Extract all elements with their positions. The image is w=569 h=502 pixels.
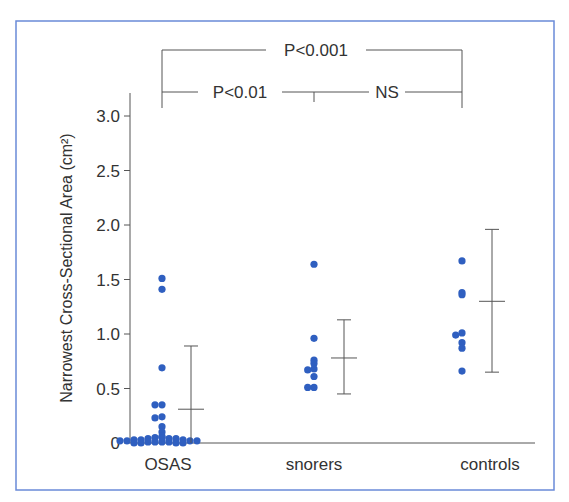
figure-frame	[16, 21, 554, 490]
data-point	[186, 437, 193, 444]
data-point	[310, 365, 317, 372]
annotation-p-0001: P<0.001	[284, 41, 348, 60]
x-category-label: OSAS	[144, 455, 191, 474]
data-point	[158, 364, 165, 371]
data-point	[116, 437, 123, 444]
y-axis-label: Narrowest Cross-Sectional Area (cm²)	[58, 133, 75, 402]
annotation-p-001: P<0.01	[213, 83, 267, 102]
y-tick-label: 2.0	[96, 216, 120, 235]
data-point	[452, 331, 459, 338]
x-category-label: snorers	[286, 455, 343, 474]
data-point	[165, 438, 172, 445]
data-point	[151, 401, 158, 408]
annotation-ns: NS	[375, 83, 399, 102]
data-point	[158, 401, 165, 408]
data-point	[304, 366, 311, 373]
y-tick-label: 3.0	[96, 107, 120, 126]
y-tick-label: 1.5	[96, 271, 120, 290]
y-tick-label: 1.0	[96, 325, 120, 344]
data-point	[151, 438, 158, 445]
y-tick-label: 0.5	[96, 380, 120, 399]
scatter-chart: 00.51.01.52.02.53.0Narrowest Cross-Secti…	[0, 0, 569, 502]
data-point	[310, 373, 317, 380]
data-point	[151, 414, 158, 421]
data-point	[158, 413, 165, 420]
data-point	[130, 439, 137, 446]
data-point	[158, 286, 165, 293]
data-point	[193, 437, 200, 444]
data-point	[458, 367, 465, 374]
y-tick-label: 2.5	[96, 162, 120, 181]
data-point	[310, 335, 317, 342]
data-point	[158, 275, 165, 282]
data-point	[458, 291, 465, 298]
data-point	[137, 439, 144, 446]
data-point	[310, 261, 317, 268]
data-point	[458, 257, 465, 264]
data-point	[123, 437, 130, 444]
data-point	[310, 384, 317, 391]
chart-figure: 00.51.01.52.02.53.0Narrowest Cross-Secti…	[0, 0, 569, 502]
data-point	[304, 384, 311, 391]
x-category-label: controls	[460, 455, 520, 474]
data-point	[144, 438, 151, 445]
data-point	[179, 439, 186, 446]
data-point	[158, 438, 165, 445]
data-point	[458, 345, 465, 352]
data-point	[172, 439, 179, 446]
data-point	[458, 329, 465, 336]
